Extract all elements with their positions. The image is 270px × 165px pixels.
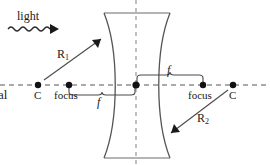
r2-label: R2 — [197, 112, 209, 126]
light-label: light — [17, 10, 39, 22]
r2-label-subscript: 2 — [205, 117, 209, 126]
focal-length-left-label: f — [97, 96, 100, 108]
c-right-label: C — [229, 90, 236, 101]
r1-label-text: R — [57, 47, 65, 61]
focus-left-label: focus — [54, 90, 78, 101]
focal-length-bracket-left-icon — [69, 86, 135, 95]
r1-label: R1 — [57, 48, 69, 62]
r2-label-text: R — [197, 111, 205, 125]
point-focus-left — [66, 82, 72, 88]
focal-length-right-label: f — [167, 64, 170, 76]
radius-arrow-r1-icon — [44, 39, 101, 80]
axis-label: al — [0, 88, 7, 101]
focus-right-label: focus — [188, 90, 212, 101]
point-c-left — [35, 82, 41, 88]
lens-diagram-canvas: light al C C focus focus R1 R2 f f — [0, 0, 270, 165]
c-left-label: C — [34, 90, 41, 101]
point-lens-center — [132, 81, 139, 88]
r1-label-subscript: 1 — [65, 53, 69, 62]
point-c-right — [230, 82, 236, 88]
wave-arrow-icon — [8, 24, 59, 34]
diagram-svg — [0, 0, 270, 165]
point-focus-right — [200, 82, 206, 88]
